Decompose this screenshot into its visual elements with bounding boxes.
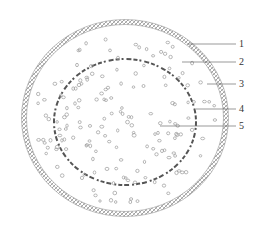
cross-section-diagram: 12345 bbox=[0, 0, 260, 231]
cell-icon bbox=[213, 105, 216, 107]
cell-icon bbox=[46, 146, 49, 149]
cell-icon bbox=[53, 82, 57, 85]
cell-icon bbox=[43, 142, 46, 145]
cell-icon bbox=[72, 136, 75, 139]
cell-icon bbox=[130, 116, 133, 119]
cell-icon bbox=[44, 114, 47, 117]
cell-icon bbox=[184, 171, 188, 174]
inner-ring bbox=[54, 59, 196, 185]
cell-icon bbox=[179, 133, 182, 136]
cell-icon bbox=[62, 96, 66, 99]
cell-icon bbox=[121, 112, 124, 115]
cell-icon bbox=[104, 88, 107, 91]
cell-icon bbox=[105, 167, 109, 170]
cell-icon bbox=[136, 200, 139, 203]
cell-icon bbox=[109, 199, 112, 203]
cell-icon bbox=[213, 119, 216, 122]
cell-icon bbox=[149, 113, 153, 115]
cell-icon bbox=[60, 174, 64, 178]
cell-icon bbox=[172, 152, 176, 154]
cell-icon bbox=[169, 120, 172, 123]
outer-ring bbox=[22, 20, 229, 217]
cell-icon bbox=[93, 171, 96, 174]
cell-icon bbox=[56, 121, 59, 124]
cell-icon bbox=[174, 137, 177, 140]
cell-icon bbox=[134, 43, 138, 46]
cell-icon bbox=[154, 133, 157, 136]
cell-icon bbox=[37, 139, 41, 142]
cell-icon bbox=[58, 134, 62, 137]
cell-icon bbox=[120, 82, 123, 85]
cell-icon bbox=[167, 132, 170, 135]
cell-icon bbox=[134, 72, 137, 76]
cell-icon bbox=[169, 55, 172, 58]
cell-icon bbox=[104, 38, 107, 41]
cell-dots bbox=[37, 38, 217, 204]
cell-icon bbox=[187, 101, 189, 104]
cell-icon bbox=[171, 45, 174, 48]
cell-icon bbox=[101, 75, 105, 78]
cell-icon bbox=[129, 200, 132, 203]
cell-icon bbox=[116, 68, 118, 71]
cell-icon bbox=[110, 112, 113, 115]
cell-icon bbox=[117, 129, 119, 132]
cell-icon bbox=[61, 139, 63, 142]
cell-icon bbox=[64, 148, 67, 151]
cell-icon bbox=[76, 63, 79, 66]
cell-icon bbox=[92, 189, 95, 192]
cell-icon bbox=[162, 184, 165, 187]
cell-icon bbox=[99, 200, 101, 202]
cell-icon bbox=[42, 138, 45, 141]
cell-icon bbox=[201, 137, 205, 140]
cell-icon bbox=[90, 72, 94, 75]
cell-icon bbox=[178, 77, 181, 80]
cell-icon bbox=[152, 55, 155, 57]
cell-icon bbox=[58, 128, 61, 131]
cell-icon bbox=[175, 132, 178, 136]
cell-icon bbox=[119, 159, 123, 162]
cell-icon bbox=[192, 101, 195, 104]
cell-icon bbox=[45, 152, 48, 155]
cell-icon bbox=[103, 117, 106, 120]
cell-icon bbox=[167, 192, 170, 195]
cell-icon bbox=[74, 102, 77, 105]
cell-icon bbox=[133, 181, 136, 184]
cell-icon bbox=[168, 67, 171, 70]
callout-label-1: 1 bbox=[239, 38, 244, 49]
callout-label-5: 5 bbox=[239, 120, 244, 131]
cell-icon bbox=[80, 176, 83, 179]
cell-icon bbox=[208, 101, 211, 104]
cell-icon bbox=[88, 140, 91, 142]
cell-icon bbox=[126, 179, 129, 182]
cell-icon bbox=[127, 116, 130, 119]
cell-icon bbox=[37, 102, 40, 105]
cell-icon bbox=[126, 120, 130, 124]
cell-icon bbox=[144, 177, 147, 179]
cell-icon bbox=[100, 125, 104, 128]
cell-icon bbox=[186, 84, 190, 87]
cell-icon bbox=[157, 131, 160, 134]
cell-icon bbox=[115, 167, 118, 170]
cell-icon bbox=[132, 86, 135, 88]
cell-icon bbox=[130, 198, 133, 201]
cell-icon bbox=[95, 98, 98, 101]
cell-icon bbox=[143, 160, 145, 163]
cell-icon bbox=[66, 124, 68, 127]
cell-icon bbox=[159, 122, 163, 125]
cell-icon bbox=[166, 41, 170, 44]
cell-icon bbox=[49, 139, 52, 143]
cell-icon bbox=[110, 97, 113, 100]
cell-icon bbox=[79, 126, 83, 129]
cell-icon bbox=[78, 121, 81, 124]
cell-icon bbox=[77, 106, 80, 109]
cell-icon bbox=[164, 84, 167, 87]
cell-icon bbox=[109, 49, 112, 52]
cell-icon bbox=[146, 145, 149, 148]
cell-icon bbox=[100, 92, 104, 95]
cell-icon bbox=[136, 169, 139, 172]
cell-icon bbox=[64, 128, 67, 131]
cell-icon bbox=[113, 191, 117, 195]
cell-icon bbox=[187, 117, 190, 119]
cell-icon bbox=[158, 139, 162, 142]
cell-icon bbox=[152, 148, 155, 151]
